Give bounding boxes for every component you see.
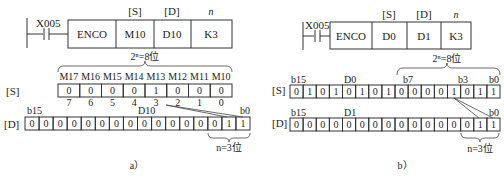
bit-value: 0 (452, 119, 457, 130)
dest-register-label-a: D10 (138, 105, 155, 116)
source-bit7-label-b: b7 (403, 74, 413, 85)
caption-a: a） (130, 160, 144, 171)
source-bit-index: 5 (110, 97, 115, 108)
source-column-name: M13 (146, 71, 165, 82)
mapping-line (454, 98, 493, 118)
source-column-name: M10 (212, 71, 231, 82)
bit-value: 0 (347, 119, 352, 130)
source-column-name: M15 (103, 71, 122, 82)
bit-value: 0 (66, 85, 71, 96)
bit-value: 0 (425, 119, 430, 130)
bit-value: 0 (198, 118, 203, 129)
bit-value: 0 (156, 118, 161, 129)
bit-value: 0 (373, 86, 378, 97)
brace-bottom-label-b: n=3位 (467, 142, 493, 154)
dest-left-bit-label-b: b15 (291, 107, 306, 118)
bit-value: 0 (175, 85, 180, 96)
source-left-bit-label-b: b15 (291, 74, 306, 85)
source-right-bit-label-b: b0 (489, 74, 499, 85)
source-column-name: M16 (81, 71, 100, 82)
bit-value: 0 (399, 119, 404, 130)
source-column-names-a: M17M16M15M14M13M12M11M10 (59, 71, 230, 82)
source-column-name: M14 (125, 71, 144, 82)
dest-bit-row-a: 0000000000000011 (25, 117, 250, 130)
instruction-mnemonic: ENCO (336, 30, 366, 42)
bit-value: 0 (58, 118, 63, 129)
bit-value: 0 (86, 118, 91, 129)
contact-label: X005 (36, 17, 61, 29)
bit-value: 0 (44, 118, 49, 129)
source-column-name: M12 (168, 71, 187, 82)
panel-a: X005 ENCO M10 D10 K3 [S] [D] n 2ⁿ=8位 [S]… (4, 5, 250, 171)
source-bit-row-a: 00001000 (58, 84, 232, 97)
bit-value: 0 (438, 86, 443, 97)
bit-value: 1 (491, 119, 496, 130)
bit-value: 1 (240, 118, 245, 129)
bit-value: 0 (465, 86, 470, 97)
dest-register-label-b: D1 (344, 107, 356, 118)
header-d: [D] (164, 5, 179, 17)
source-bit-index: 1 (197, 97, 202, 108)
bit-value: 1 (478, 86, 483, 97)
operand-d: D10 (163, 28, 182, 40)
bit-value: 0 (294, 119, 299, 130)
brace-top-label-a: 2ⁿ=8位 (131, 50, 160, 62)
source-column-name: M11 (190, 71, 209, 82)
operand-s: D0 (382, 30, 396, 42)
encode-instruction-diagram: X005 ENCO M10 D10 K3 [S] [D] n 2ⁿ=8位 [S]… (0, 0, 504, 183)
operand-d: D1 (417, 30, 430, 42)
bit-value: 1 (153, 85, 158, 96)
dest-bit-row-b: 0000000000000011 (290, 118, 500, 131)
bit-value: 0 (386, 119, 391, 130)
mapping-line (454, 98, 479, 118)
bit-value: 0 (212, 118, 217, 129)
source-bit-index: 6 (88, 97, 93, 108)
operand-n: K3 (204, 28, 218, 40)
bit-value: 0 (320, 119, 325, 130)
source-bit3-label-b: b3 (458, 74, 468, 85)
bit-value: 0 (88, 85, 93, 96)
bit-value: 0 (128, 118, 133, 129)
bit-value: 0 (438, 119, 443, 130)
header-s: [S] (382, 8, 395, 20)
brace-bottom-a (208, 133, 250, 142)
ladder-rung-a: X005 ENCO M10 D10 K3 [S] [D] n (27, 5, 232, 48)
contact-icon (44, 28, 49, 40)
panel-b: X005 ENCO D0 D1 K3 [S] [D] n 2ⁿ=8位 [S] b… (272, 8, 500, 171)
bit-value: 0 (72, 118, 77, 129)
bit-value: 1 (360, 86, 365, 97)
operand-n: K3 (449, 30, 463, 42)
source-column-name: M17 (59, 71, 78, 82)
caption-b: b） (398, 160, 413, 171)
bit-value: 1 (307, 86, 312, 97)
bit-value: 0 (100, 118, 105, 129)
mapping-line (166, 105, 243, 117)
bit-value: 1 (452, 86, 457, 97)
operand-s: M10 (125, 28, 146, 40)
bit-value: 0 (110, 85, 115, 96)
bit-value: 0 (360, 119, 365, 130)
source-bit-index: 4 (132, 97, 137, 108)
bit-value: 0 (197, 85, 202, 96)
header-n: n (209, 6, 214, 17)
contact-icon (315, 30, 320, 42)
bit-value: 0 (142, 118, 147, 129)
source-register-label-b: D0 (344, 74, 356, 85)
brace-bottom-b (461, 133, 499, 142)
bit-value: 0 (114, 118, 119, 129)
source-row-label-a: [S] (6, 85, 19, 97)
bit-value: 1 (386, 86, 391, 97)
dest-row-label-b: [D] (272, 117, 287, 129)
dest-row-label-a: [D] (4, 118, 19, 130)
bit-value: 0 (307, 119, 312, 130)
bit-value: 0 (132, 85, 137, 96)
header-n: n (454, 9, 459, 20)
bit-value: 0 (412, 86, 417, 97)
contact-label: X005 (305, 19, 330, 31)
bit-value: 0 (294, 86, 299, 97)
bit-value: 0 (30, 118, 35, 129)
bit-value: 0 (320, 86, 325, 97)
source-bit-row-b: 0101010100001011 (290, 85, 500, 98)
bit-value: 0 (373, 119, 378, 130)
bit-value: 1 (226, 118, 231, 129)
